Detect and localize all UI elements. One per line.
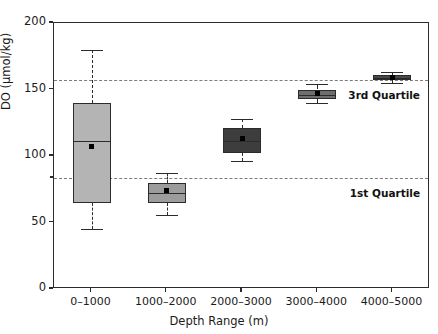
y-tick-label: 150: [0, 83, 46, 95]
x-tick-mark: [240, 288, 241, 292]
x-axis-title: Depth Range (m): [0, 314, 438, 328]
whisker-cap-upper: [381, 72, 403, 73]
x-tick-label: 4000–5000: [346, 296, 436, 307]
x-tick-mark: [165, 288, 166, 292]
x-tick-mark: [391, 288, 392, 292]
y-tick-label: 100: [0, 149, 46, 161]
y-tick-label: 50: [0, 216, 46, 228]
boxplot-figure: DO (μmol/kg) 050100150200 3rd Quartile1s…: [0, 0, 438, 334]
x-tick-mark: [316, 288, 317, 292]
plot-area: 3rd Quartile1st Quartile: [53, 22, 429, 288]
y-tick-label: 0: [0, 282, 46, 294]
y-tick-label: 200: [0, 16, 46, 28]
x-tick-mark: [90, 288, 91, 292]
whisker-cap-lower: [381, 83, 403, 84]
y-axis-title: DO (μmol/kg): [0, 33, 13, 110]
mean-marker: [390, 75, 395, 80]
box-plot-item[interactable]: [54, 23, 430, 287]
